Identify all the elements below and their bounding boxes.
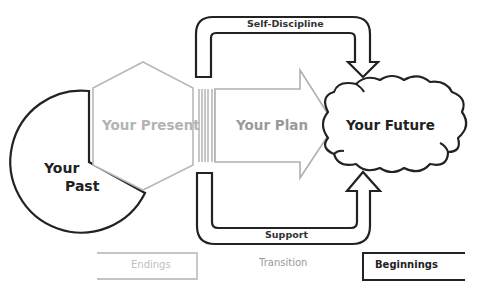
past-label-line2: Past [65, 178, 99, 194]
self-discipline-label: Self-Discipline [247, 18, 324, 29]
present-label: Your Present [102, 117, 200, 133]
past-label-line1: Your [44, 160, 79, 176]
diagram-canvas [0, 0, 492, 295]
plan-label: Your Plan [236, 117, 308, 133]
legend-beginnings-label: Beginnings [375, 259, 438, 270]
legend-transition-label: Transition [259, 257, 307, 268]
transition-stripes [199, 89, 215, 162]
legend-endings-label: Endings [131, 259, 171, 270]
future-label: Your Future [346, 117, 435, 133]
support-label: Support [265, 229, 308, 240]
